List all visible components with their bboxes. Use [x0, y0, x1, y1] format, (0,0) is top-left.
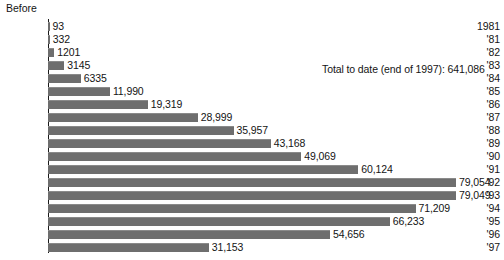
axis-label-before-word: Before — [6, 3, 37, 14]
bar-row: 66,233 — [48, 217, 456, 226]
bar — [48, 87, 110, 96]
bar-row: 71,209 — [48, 204, 456, 213]
total-to-date-annotation: Total to date (end of 1997): 641,086 — [322, 63, 485, 75]
bar-value-label: 93 — [53, 21, 64, 32]
bar-value-label: 35,957 — [237, 125, 269, 136]
bar — [48, 48, 54, 57]
bar — [48, 61, 64, 70]
bar-value-label: 49,069 — [304, 151, 336, 162]
bar-value-label: 1201 — [57, 47, 80, 58]
bar-value-label: 332 — [53, 34, 70, 45]
bar — [48, 139, 271, 148]
bar-value-label: 71,209 — [419, 203, 451, 214]
bar-row: 11,990 — [48, 87, 456, 96]
bar-row: 19,319 — [48, 100, 456, 109]
bar-row: 1201 — [48, 48, 456, 57]
bar-value-label: 31,153 — [212, 242, 244, 253]
bar-row: 28,999 — [48, 113, 456, 122]
bar — [48, 126, 234, 135]
bar-row: 31,153 — [48, 243, 456, 252]
plot-area: 9333212013145633511,99019,31928,99935,95… — [48, 0, 504, 260]
bar — [48, 191, 456, 200]
bar-value-label: 19,319 — [151, 99, 183, 110]
bar — [48, 100, 148, 109]
bar-value-label: 54,656 — [333, 229, 365, 240]
bar-chart: Before 1981'81'82'83'84'85'86'87'88'89'9… — [0, 0, 504, 260]
bar — [48, 35, 50, 44]
bar-value-label: 3145 — [67, 60, 90, 71]
bar-value-label: 66,233 — [393, 216, 425, 227]
bar-row: 332 — [48, 35, 456, 44]
bar-value-label: 79,049 — [459, 190, 491, 201]
bar-value-label: 11,990 — [113, 86, 144, 97]
bar — [48, 74, 81, 83]
bar-row: 49,069 — [48, 152, 456, 161]
bar-row: 43,168 — [48, 139, 456, 148]
bar — [48, 152, 301, 161]
bar — [48, 204, 416, 213]
bar-row: 79,054 — [48, 178, 456, 187]
bar — [48, 243, 209, 252]
bar — [48, 22, 50, 31]
bar-row: 35,957 — [48, 126, 456, 135]
bar-row: 79,049 — [48, 191, 456, 200]
bar-value-label: 6335 — [84, 73, 107, 84]
bar — [48, 113, 198, 122]
bar-row: 54,656 — [48, 230, 456, 239]
bar-value-label: 28,999 — [201, 112, 233, 123]
bar — [48, 165, 358, 174]
bar — [48, 217, 390, 226]
bar-row: 93 — [48, 22, 456, 31]
bar-row: 60,124 — [48, 165, 456, 174]
bar-value-label: 60,124 — [361, 164, 393, 175]
bar-value-label: 79,054 — [459, 177, 491, 188]
bar-value-label: 43,168 — [274, 138, 306, 149]
bar — [48, 178, 456, 187]
bar — [48, 230, 330, 239]
